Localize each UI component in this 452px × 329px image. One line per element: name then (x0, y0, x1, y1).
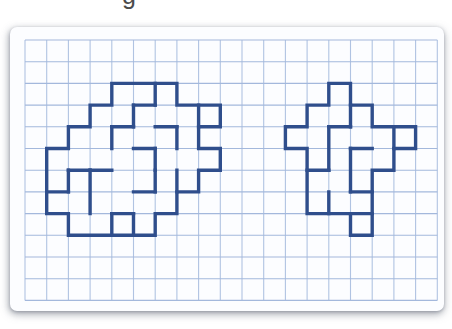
figure-canvas (10, 27, 444, 311)
page: g (0, 0, 452, 329)
grid-paper-card (10, 27, 444, 311)
cropped-title-glyph: g (122, 0, 162, 8)
cropped-title-text: g (122, 0, 162, 9)
right-polyomino-figure (285, 83, 415, 235)
